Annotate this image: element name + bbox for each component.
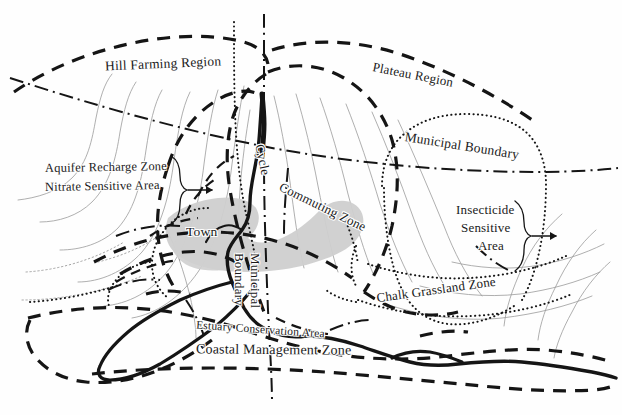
label-nitrate-sensitive-area: Nitrate Sensitive Area — [45, 179, 160, 195]
label-area: Area — [478, 239, 504, 253]
label-town: Town — [186, 225, 217, 240]
label-aquifer-recharge-zone: Aquifer Recharge Zone — [45, 160, 167, 176]
insecticide-callout — [515, 201, 557, 271]
label-insecticide: Insecticide — [456, 203, 515, 217]
label-sensitive: Sensitive — [461, 221, 510, 235]
label-municipal-vertical-word2: Boundary — [232, 253, 246, 306]
label-coastal-management-zone: Coastal Management Zone — [196, 341, 352, 357]
map-canvas: Hill Farming Region Plateau Region Aquif… — [0, 0, 622, 415]
label-municipal-vertical-word1: Municipal — [248, 253, 262, 308]
